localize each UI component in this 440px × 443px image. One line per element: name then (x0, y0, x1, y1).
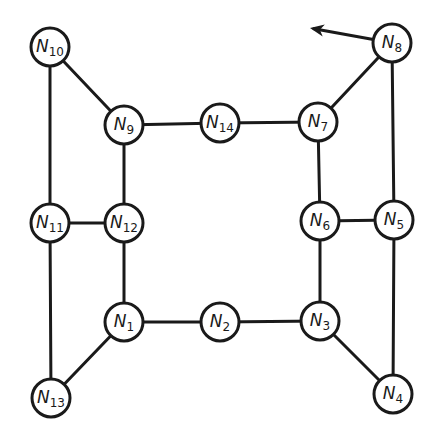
node-n2: N2 (201, 303, 239, 341)
node-n6: N6 (301, 202, 339, 240)
node-n1: N1 (105, 303, 143, 341)
edge-n11-n13 (50, 223, 51, 398)
edge-n5-n4 (393, 220, 394, 394)
node-n11: N11 (31, 204, 69, 242)
node-n8: N8 (373, 24, 411, 62)
node-n14: N14 (201, 104, 239, 142)
node-n4: N4 (374, 375, 412, 413)
arrow-layer (310, 25, 373, 40)
edges-layer (50, 43, 394, 398)
edge-n8-n5 (392, 43, 394, 220)
node-n10: N10 (31, 28, 69, 66)
node-n13: N13 (32, 379, 70, 417)
node-n3: N3 (301, 302, 339, 340)
node-n7: N7 (299, 103, 337, 141)
node-n9: N9 (105, 106, 143, 144)
network-graph: N1N2N3N4N5N6N7N8N9N10N11N12N13N14 (0, 0, 440, 443)
node-n5: N5 (375, 201, 413, 239)
node-n12: N12 (105, 204, 143, 242)
arrow-shaft (314, 29, 373, 40)
